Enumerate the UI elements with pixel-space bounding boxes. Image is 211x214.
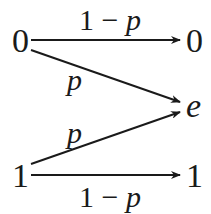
- output-node-0: 0: [186, 22, 203, 59]
- edge-1-to-e: [31, 112, 180, 164]
- input-node-0: 0: [12, 22, 29, 59]
- edge-label-1-to-e: p: [65, 116, 82, 149]
- edge-0-to-e: [31, 50, 180, 102]
- edge-label-1-to-1: 1 − p: [79, 180, 141, 213]
- output-node-1: 1: [186, 157, 203, 194]
- output-node-erasure: e: [186, 87, 201, 124]
- edge-label-0-to-e: p: [65, 63, 82, 96]
- edge-label-0-to-0: 1 − p: [79, 3, 141, 36]
- edge-label-1-to-1-text: 1 −: [79, 180, 126, 213]
- edge-label-0-to-0-text: 1 −: [79, 3, 126, 36]
- input-node-1: 1: [12, 157, 29, 194]
- bec-diagram: 0 1 0 e 1 1 − p p p 1 − p: [0, 0, 211, 214]
